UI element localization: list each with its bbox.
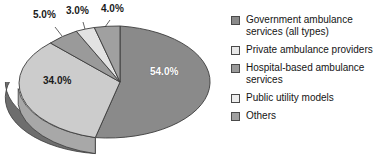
legend-label-public-utility-models: Public utility models xyxy=(246,92,334,104)
legend-swatch-icon-government-ambulance-services xyxy=(231,16,240,25)
legend-item-public-utility-models[interactable]: Public utility models xyxy=(231,92,392,104)
leader-line-public-utility xyxy=(83,22,85,29)
pie-chart-plot-area: 54.0% 34.0% 5.0% 3.0% 4.0% xyxy=(0,0,232,157)
pie-chart-svg xyxy=(0,0,232,157)
legend-item-government-ambulance-services[interactable]: Government ambulance services (all types… xyxy=(231,14,392,38)
legend-label-others: Others xyxy=(246,110,276,122)
pie-label-government-ambulance-services: 54.0% xyxy=(150,66,178,77)
legend-item-others[interactable]: Others xyxy=(231,110,392,122)
legend-item-private-ambulance-providers[interactable]: Private ambulance providers xyxy=(231,44,392,56)
legend-swatch-icon-public-utility-models xyxy=(231,94,240,103)
legend-label-government-ambulance-services: Government ambulance services (all types… xyxy=(246,14,388,38)
pie-chart-figure: 54.0% 34.0% 5.0% 3.0% 4.0% Government am… xyxy=(0,0,392,157)
legend-label-hospital-based-ambulance-services: Hospital-based ambulance services xyxy=(246,62,388,86)
pie-label-hospital-based-ambulance-services: 5.0% xyxy=(33,9,56,20)
legend-item-hospital-based-ambulance-services[interactable]: Hospital-based ambulance services xyxy=(231,62,392,86)
pie-label-others: 4.0% xyxy=(101,3,124,14)
legend-swatch-icon-private-ambulance-providers xyxy=(231,46,240,55)
pie-label-public-utility-models: 3.0% xyxy=(66,5,89,16)
chart-legend: Government ambulance services (all types… xyxy=(231,14,392,128)
legend-swatch-icon-hospital-based-ambulance-services xyxy=(231,64,240,73)
legend-swatch-icon-others xyxy=(231,112,240,121)
leader-line-hospital-based xyxy=(55,27,62,36)
legend-label-private-ambulance-providers: Private ambulance providers xyxy=(246,44,373,56)
pie-label-private-ambulance-providers: 34.0% xyxy=(43,75,71,86)
